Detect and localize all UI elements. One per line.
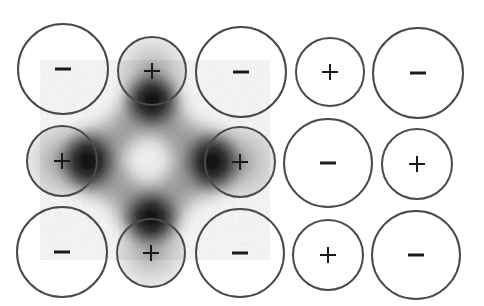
cloud-grain-texture — [40, 60, 270, 260]
diagram-canvas — [0, 0, 484, 306]
ionic-lattice-diagram: −+−+−++−+−+−+− — [0, 0, 484, 306]
